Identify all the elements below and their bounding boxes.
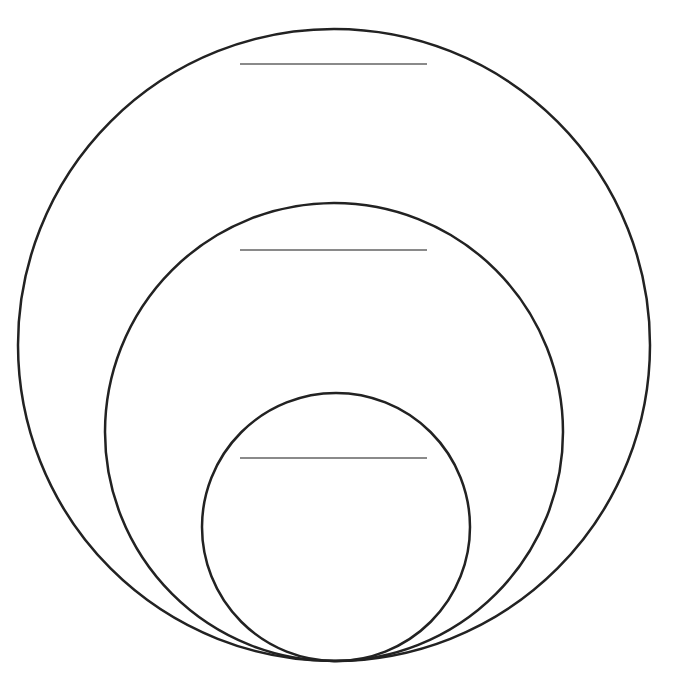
label-lines-layer — [240, 64, 427, 458]
circles-layer — [18, 29, 650, 661]
nested-circles-diagram — [0, 0, 677, 687]
circle-inner — [202, 393, 470, 661]
circle-middle — [105, 203, 563, 661]
diagram-canvas — [0, 0, 677, 687]
circle-outer — [18, 29, 650, 661]
